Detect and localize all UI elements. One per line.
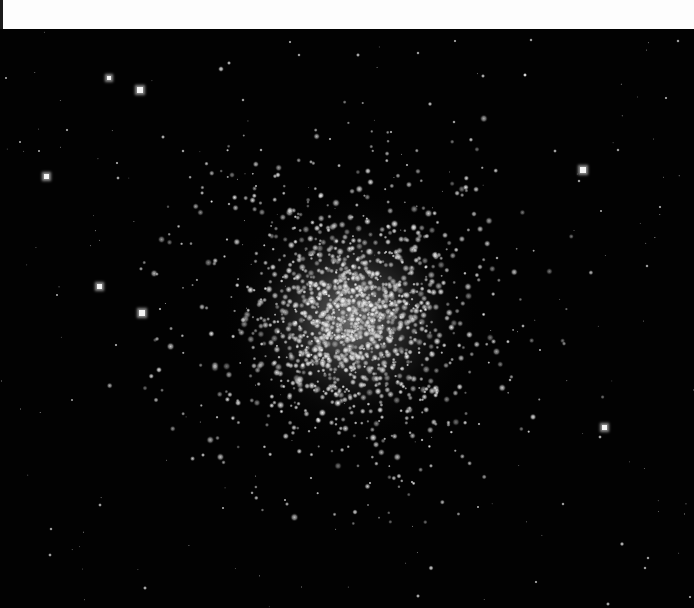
top-white-band [0, 0, 694, 29]
bright-star [97, 284, 102, 289]
bright-star [107, 76, 111, 80]
bright-star [137, 87, 143, 93]
bright-star [580, 167, 586, 173]
bright-star [139, 310, 145, 316]
bright-star [44, 174, 49, 179]
star-field-canvas [0, 29, 694, 608]
bright-star [602, 425, 607, 430]
night-sky-photo [0, 29, 694, 608]
